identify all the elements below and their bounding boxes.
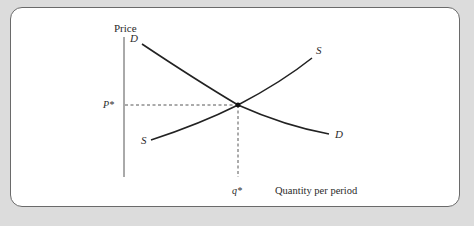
supply-top-label: S [316,44,322,56]
equilibrium-point [236,103,241,108]
quantity-axis-label: Quantity per period [275,185,358,196]
supply-curve [151,58,312,140]
supply-demand-diagram: Price D S P* S D q* Quantity per period [0,0,474,226]
demand-top-label: D [129,32,138,44]
demand-curve [142,44,329,134]
demand-bottom-label: D [334,128,343,140]
p-star-label: P* [102,99,114,110]
supply-bottom-label: S [141,134,147,146]
q-star-label: q* [232,185,242,196]
